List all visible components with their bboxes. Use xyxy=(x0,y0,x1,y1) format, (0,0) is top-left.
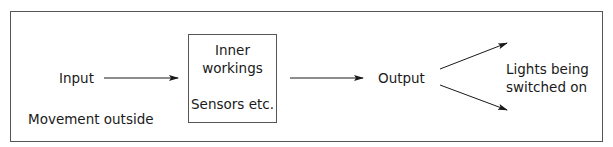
arrow-output-lower xyxy=(440,85,507,110)
arrow-output-upper xyxy=(440,43,507,69)
arrows-layer xyxy=(0,0,613,147)
